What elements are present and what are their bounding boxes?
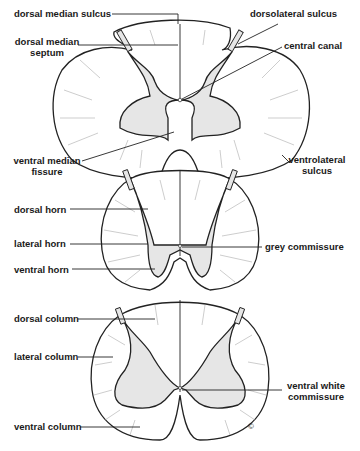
label-dorsal-median-sulcus: dorsal median sulcus <box>14 8 111 19</box>
label-ventral-median-fissure-line1: ventral median <box>12 155 82 166</box>
label-dorsal-median-septum-line1: dorsal median <box>14 36 80 47</box>
label-ventrolateral-sulcus-line2: sulcus <box>284 165 350 176</box>
label-ventral-column: ventral column <box>14 421 82 432</box>
label-ventral-horn: ventral horn <box>14 264 69 275</box>
label-grey-commissure: grey commissure <box>265 241 344 252</box>
bottom-cross-section <box>78 300 282 440</box>
label-dorsal-median-septum-line2: septum <box>14 47 80 58</box>
label-ventral-median-fissure-line2: fissure <box>12 166 82 177</box>
label-ventrolateral-sulcus-line1: ventrolateral <box>284 154 350 165</box>
label-dorsolateral-sulcus: dorsolateral sulcus <box>250 8 337 19</box>
label-ventral-white-commissure-line2: commissure <box>282 391 350 402</box>
label-central-canal: central canal <box>284 40 342 51</box>
middle-cross-section <box>70 170 262 290</box>
top-cross-section <box>53 14 309 178</box>
label-dorsal-horn: dorsal horn <box>14 204 66 215</box>
label-lateral-column: lateral column <box>14 351 78 362</box>
label-dorsal-column: dorsal column <box>14 313 79 324</box>
copyright-mark: © <box>248 421 254 432</box>
label-ventral-white-commissure-line1: ventral white <box>282 380 350 391</box>
label-lateral-horn: lateral horn <box>14 238 66 249</box>
